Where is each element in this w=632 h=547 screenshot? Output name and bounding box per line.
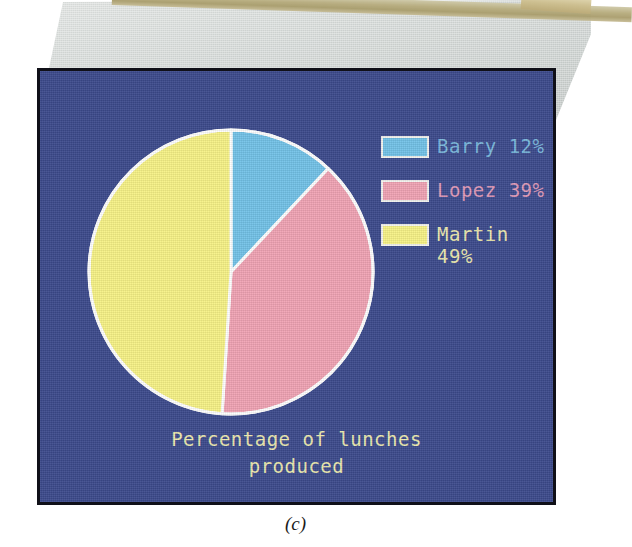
pie-slice-martin: [89, 130, 231, 414]
legend-swatch-lopez: [381, 180, 429, 202]
legend-item-barry: Barry 12%: [381, 135, 556, 158]
pie-chart-svg: [85, 126, 377, 418]
legend-swatch-barry: [381, 136, 429, 158]
legend-item-lopez: Lopez 39%: [381, 179, 556, 202]
chart-legend: Barry 12% Lopez 39% Martin 49%: [381, 135, 556, 288]
chart-caption: Percentage of lunches produced: [40, 426, 553, 480]
figure-label: (c): [0, 513, 591, 535]
monitor-screen: Barry 12% Lopez 39% Martin 49% Percentag…: [37, 68, 556, 505]
legend-swatch-martin: [381, 224, 429, 246]
pie-chart: [85, 126, 377, 418]
legend-item-martin: Martin 49%: [381, 223, 556, 267]
legend-label-martin: Martin 49%: [437, 223, 509, 267]
pie-slice-group: [89, 130, 373, 414]
legend-label-barry: Barry 12%: [437, 135, 544, 157]
legend-label-lopez: Lopez 39%: [437, 179, 544, 201]
